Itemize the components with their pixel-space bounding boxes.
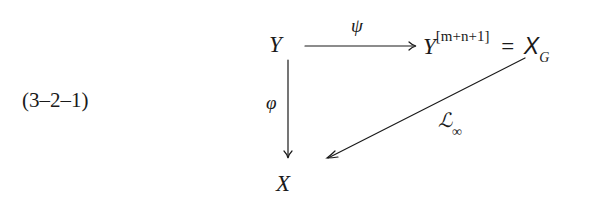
- arrows-layer: [0, 0, 615, 205]
- diagonal-arrow-l-infinity: [328, 58, 525, 158]
- diagonal-arrowhead: [327, 151, 338, 158]
